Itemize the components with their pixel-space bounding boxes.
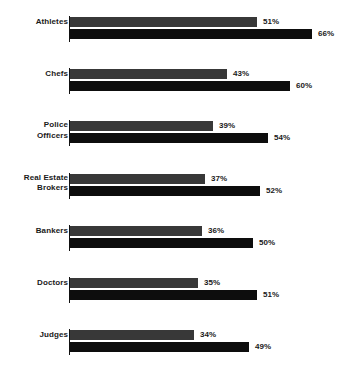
bar-chart: Athletes51%66%Chefs43%60%PoliceOfficers3…: [0, 0, 363, 387]
bar-group: Doctors35%51%: [0, 277, 363, 307]
bar-value-label: 51%: [263, 17, 279, 27]
bar-series-b: [70, 81, 290, 91]
bar-series-a: [70, 17, 257, 27]
bar-series-a: [70, 69, 227, 79]
category-label-line: Brokers: [0, 183, 68, 194]
category-label-line: Officers: [0, 131, 68, 142]
bar-value-label: 43%: [233, 69, 249, 79]
category-label: Bankers: [0, 226, 68, 237]
category-label-line: Bankers: [0, 226, 68, 237]
bar-value-label: 50%: [259, 238, 275, 248]
category-label: Real EstateBrokers: [0, 173, 68, 194]
bar-series-b: [70, 342, 249, 352]
bar-series-a: [70, 330, 194, 340]
category-label: Athletes: [0, 17, 68, 28]
bar-value-label: 36%: [208, 226, 224, 236]
bar-value-label: 49%: [255, 342, 271, 352]
bar-series-a: [70, 226, 202, 236]
bar-group: Real EstateBrokers37%52%: [0, 173, 363, 203]
category-label-line: Judges: [0, 330, 68, 341]
bar-series-b: [70, 238, 253, 248]
bar-value-label: 34%: [200, 330, 216, 340]
bar-group: Judges34%49%: [0, 329, 363, 359]
bar-value-label: 66%: [318, 29, 334, 39]
bar-series-a: [70, 278, 198, 288]
bar-series-b: [70, 186, 260, 196]
bar-series-b: [70, 290, 257, 300]
bar-value-label: 60%: [296, 81, 312, 91]
bar-value-label: 52%: [266, 186, 282, 196]
category-label-line: Police: [0, 120, 68, 131]
bar-series-a: [70, 121, 213, 131]
bar-value-label: 54%: [274, 133, 290, 143]
bar-group: Chefs43%60%: [0, 68, 363, 98]
category-label-line: Chefs: [0, 69, 68, 80]
category-label: Doctors: [0, 278, 68, 289]
category-label-line: Real Estate: [0, 173, 68, 184]
bar-series-b: [70, 29, 312, 39]
category-label: Chefs: [0, 69, 68, 80]
bar-series-a: [70, 174, 205, 184]
bar-value-label: 35%: [204, 278, 220, 288]
bar-value-label: 37%: [211, 174, 227, 184]
bar-value-label: 39%: [219, 121, 235, 131]
category-label: PoliceOfficers: [0, 120, 68, 141]
category-label-line: Doctors: [0, 278, 68, 289]
bar-group: PoliceOfficers39%54%: [0, 120, 363, 150]
bar-group: Bankers36%50%: [0, 225, 363, 255]
bar-group: Athletes51%66%: [0, 16, 363, 46]
bar-value-label: 51%: [263, 290, 279, 300]
category-label-line: Athletes: [0, 17, 68, 28]
bar-series-b: [70, 133, 268, 143]
category-label: Judges: [0, 330, 68, 341]
